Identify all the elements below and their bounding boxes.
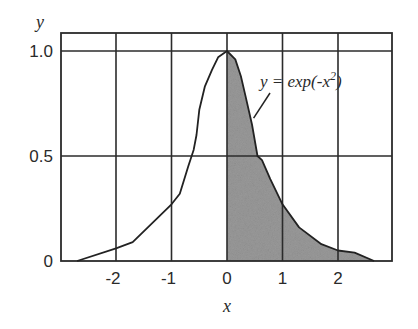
x-tick-labels: -2-1012 [105, 269, 342, 288]
y-tick-label: 1.0 [29, 42, 53, 61]
y-tick-label: 0 [44, 252, 53, 271]
y-tick-labels: 00.51.0 [29, 42, 53, 271]
y-axis-title: y [34, 12, 44, 32]
chart: y = exp(-x2) -2-1012 00.51.0 y x [0, 0, 418, 329]
y-tick-label: 0.5 [29, 147, 53, 166]
curve-annotation: y = exp(-x2) [258, 69, 342, 91]
x-tick-label: 2 [333, 269, 342, 288]
annotation-main: y = exp(-x [258, 72, 330, 91]
grid-lines [61, 33, 392, 261]
x-tick-label: 0 [222, 269, 231, 288]
x-axis-title: x [222, 296, 231, 316]
x-tick-label: 1 [278, 269, 287, 288]
annotation-close: ) [335, 72, 342, 91]
x-tick-label: -2 [105, 269, 120, 288]
x-tick-label: -1 [161, 269, 176, 288]
annotation-leader-line [254, 93, 270, 118]
